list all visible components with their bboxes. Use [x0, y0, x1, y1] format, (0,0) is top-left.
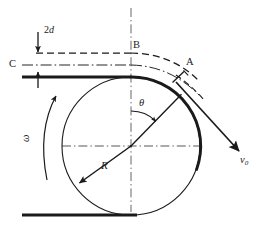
label-velocity-v0: v0 [240, 155, 248, 167]
label-radius-R: R [101, 160, 108, 171]
label-point-a: A [186, 57, 194, 68]
gap-label-2d: 2d [44, 25, 54, 35]
theta-angle-arc [131, 111, 156, 121]
label-angular-velocity-omega: ω [21, 135, 32, 142]
label-point-c: C [9, 59, 16, 70]
circle-center-dot [130, 145, 132, 147]
label-velocity-subscript: 0 [245, 159, 249, 167]
dashdot-mid-curve [131, 65, 199, 95]
label-point-b: B [133, 40, 140, 51]
thickness-tick-a [173, 72, 185, 83]
diagram-canvas [0, 0, 270, 233]
velocity-vector-v0 [176, 82, 239, 151]
gap-label-symbol: d [49, 24, 54, 35]
ball-thick-arc [131, 77, 201, 169]
physics-diagram: 2d B C A θ ω R v0 [0, 0, 270, 233]
label-angle-theta: θ [139, 98, 144, 109]
omega-rotation-arc [44, 96, 56, 180]
